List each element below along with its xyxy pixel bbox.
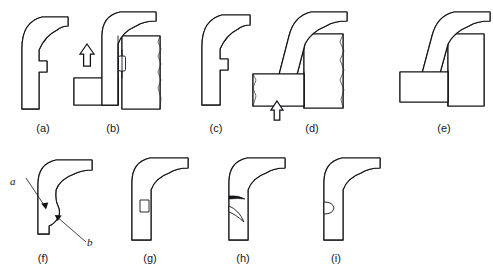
- panel-g-drawing: [118, 152, 203, 248]
- callout-label-a: b: [87, 236, 93, 248]
- caption-panel-i: (i): [315, 252, 357, 264]
- panel-f: [16, 152, 124, 248]
- flange-section-a: [22, 17, 68, 109]
- callout-label-b: a: [10, 175, 16, 187]
- lower-die-block-e: [400, 72, 448, 102]
- flange-section-h: [229, 158, 285, 240]
- flange-section-g: [132, 158, 188, 240]
- forming-arrow-b: [80, 44, 94, 66]
- figure-root: (a) (b) (c) (d) (e) a b: [0, 0, 493, 275]
- panel-h-drawing: [215, 152, 300, 248]
- upper-die-block-d: [304, 34, 344, 108]
- caption-panel-f: (f): [22, 252, 64, 264]
- panel-d-drawing: [251, 6, 351, 118]
- defect-rectangular-void-g: [140, 200, 149, 212]
- panel-d: [251, 6, 351, 118]
- caption-panel-e: (e): [423, 122, 465, 134]
- caption-panel-c: (c): [195, 122, 237, 134]
- panel-b: [72, 6, 167, 114]
- panel-g: [118, 152, 203, 248]
- panel-a-drawing: [12, 6, 76, 114]
- callout-leader-a: [55, 215, 86, 242]
- flange-section-f: [38, 160, 92, 234]
- flange-section-i: [324, 158, 380, 240]
- panel-i: [310, 152, 395, 248]
- panel-e: [398, 6, 493, 118]
- lower-die-block-d: [253, 74, 304, 106]
- panel-a: [12, 6, 76, 114]
- caption-panel-d: (d): [291, 122, 333, 134]
- upper-die-block-b: [122, 36, 161, 109]
- upper-die-block-e: [448, 34, 484, 106]
- flange-section-c: [202, 15, 250, 105]
- caption-panel-g: (g): [129, 252, 171, 264]
- panel-f-drawing: [16, 152, 124, 248]
- caption-panel-b: (b): [92, 122, 134, 134]
- panel-e-drawing: [398, 6, 493, 118]
- caption-panel-a: (a): [22, 122, 64, 134]
- panel-c-drawing: [194, 6, 258, 114]
- panel-i-drawing: [310, 152, 395, 248]
- caption-panel-h: (h): [222, 252, 264, 264]
- panel-h: [215, 152, 300, 248]
- panel-b-drawing: [72, 6, 167, 114]
- panel-c: [194, 6, 258, 114]
